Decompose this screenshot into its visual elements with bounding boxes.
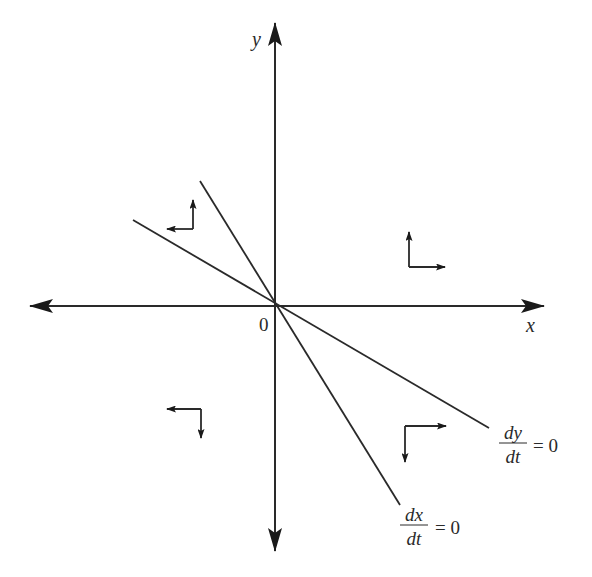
dy-equals-zero: = 0 — [533, 435, 558, 456]
dy-numerator: dy — [504, 422, 523, 443]
dy-denominator: dt — [506, 446, 522, 467]
dy-dt-nullcline — [133, 220, 489, 428]
dx-dt-nullcline — [200, 181, 400, 505]
y-axis-label: y — [250, 28, 261, 51]
phase-plane-diagram: y x 0 dy dt = 0 dx dt = 0 — [0, 0, 592, 577]
direction-indicators — [167, 200, 446, 462]
origin-label: 0 — [259, 314, 269, 335]
x-axis-label: x — [525, 314, 535, 336]
direction-upper-right-icon — [409, 232, 445, 267]
dx-equals-zero: = 0 — [435, 517, 460, 538]
dx-denominator: dt — [407, 528, 423, 549]
dx-numerator: dx — [405, 504, 424, 525]
dx-dt-zero-label: dx dt = 0 — [400, 504, 460, 549]
direction-upper-left-icon — [167, 200, 193, 229]
axes — [30, 23, 544, 551]
direction-lower-right-icon — [405, 426, 446, 462]
dy-dt-zero-label: dy dt = 0 — [499, 422, 558, 467]
direction-lower-left-icon — [167, 409, 201, 438]
